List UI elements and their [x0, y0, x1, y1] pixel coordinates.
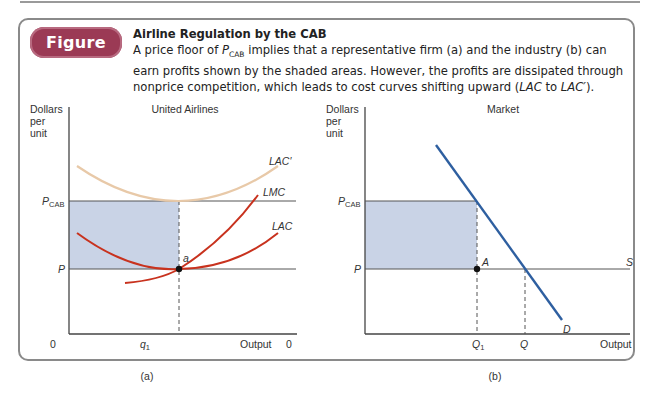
y-axis-label-a-line3: unit — [30, 127, 47, 139]
point-a-label: a — [183, 252, 189, 264]
q1-label: q1 — [140, 338, 150, 352]
lmc-label: LMC — [263, 186, 286, 198]
profit-area-b — [365, 201, 477, 269]
point-A-label: A — [481, 256, 489, 268]
point-A — [474, 266, 480, 272]
point-a — [176, 266, 182, 272]
y-axis-label-b-line2: per — [326, 115, 342, 127]
Q1-label: Q1 — [472, 338, 484, 352]
p-label-a: P — [58, 263, 65, 275]
p-label-b: P — [354, 263, 361, 275]
panel-a: Dollars per unit United Airlines a LAC′ … — [30, 103, 297, 382]
panel-a-title: United Airlines — [151, 103, 218, 115]
pcab-label-b: PCAB — [338, 195, 360, 209]
Q-label: Q — [520, 338, 528, 350]
panel-b-title: Market — [487, 103, 519, 115]
lac-label: LAC — [272, 220, 293, 232]
y-axis-label-b-line3: unit — [326, 127, 343, 139]
panel-b: Dollars per unit Market A S D PCAB P 0 Q… — [286, 103, 633, 382]
lac-prime-label: LAC′ — [269, 155, 292, 167]
charts-canvas: Dollars per unit United Airlines a LAC′ … — [0, 0, 656, 417]
panel-b-label: (b) — [489, 370, 502, 382]
x-axis-label-b-output: Output — [600, 338, 632, 350]
supply-label: S — [626, 256, 633, 268]
pcab-label-a: PCAB — [42, 195, 64, 209]
origin-label-a: 0 — [50, 338, 56, 350]
origin-label-b: 0 — [286, 338, 292, 350]
y-axis-label-a-line1: Dollars — [30, 103, 63, 115]
y-axis-label-b-line1: Dollars — [326, 103, 359, 115]
x-axis-label-a: Output — [240, 338, 272, 350]
panel-a-label: (a) — [141, 370, 154, 382]
lac-prime-curve — [77, 166, 278, 201]
y-axis-label-a-line2: per — [30, 115, 46, 127]
demand-label: D — [563, 323, 571, 335]
